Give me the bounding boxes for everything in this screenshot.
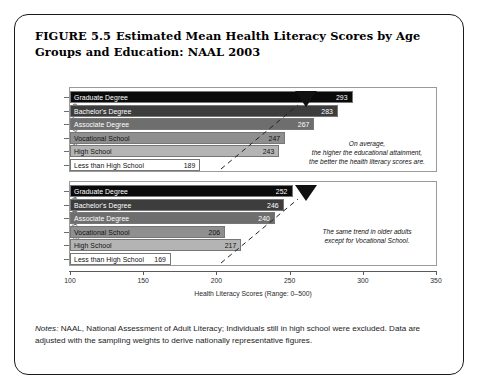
bar-value-label: 252 (276, 188, 288, 195)
y-axis-tick (64, 151, 69, 152)
annotation-top: On average, the higher the educational a… (297, 139, 437, 167)
y-axis-tick (64, 218, 69, 219)
bar-value-label: 217 (225, 242, 237, 249)
bar-value-label: 189 (184, 161, 196, 168)
bar-value-label: 283 (321, 107, 333, 114)
bar-row: Associate Degree267 (70, 118, 314, 130)
x-axis-tick-label: 250 (284, 277, 295, 284)
bar-category-label: Less than High School (74, 161, 144, 168)
bar-row: Graduate Degree293 (70, 91, 353, 103)
x-axis-tick-label: 150 (138, 277, 149, 284)
bar-row: High School217 (70, 239, 241, 251)
bar-row: Associate Degree240 (70, 212, 275, 224)
x-axis-tick (70, 271, 71, 275)
bar-row: Vocational School247 (70, 132, 285, 144)
bar-category-label: High School (74, 148, 112, 155)
y-axis-tick (64, 111, 69, 112)
y-axis-tick (64, 124, 69, 125)
bar-value-label: 240 (258, 215, 270, 222)
x-axis-tick (436, 271, 437, 275)
bar-row: Less than High School169 (70, 253, 171, 265)
bar-category-label: Associate Degree (74, 215, 129, 222)
figure-notes: Notes: NAAL, National Assessment of Adul… (35, 323, 443, 348)
bar-value-label: 246 (267, 201, 279, 208)
chart-plot-area: Age 64 and Younger Age 65 and Older Grad… (45, 87, 437, 309)
bar-value-label: 293 (336, 94, 348, 101)
y-axis-tick (64, 191, 69, 192)
bar-row: Less than High School189 (70, 159, 200, 171)
bar-category-label: High School (74, 242, 112, 249)
y-axis-tick (64, 165, 69, 166)
bar-category-label: Less than High School (74, 255, 144, 262)
bar-category-label: Graduate Degree (74, 94, 128, 101)
x-axis-tick (216, 271, 217, 275)
figure-number: FIGURE 5.5 (35, 29, 111, 43)
bar-value-label: 206 (209, 228, 221, 235)
bar-row: Bachelor's Degree246 (70, 199, 284, 211)
bar-category-label: Bachelor's Degree (74, 107, 131, 114)
x-axis-tick (290, 271, 291, 275)
bar-value-label: 169 (154, 255, 166, 262)
y-axis-tick (64, 138, 69, 139)
bar-value-label: 243 (263, 148, 275, 155)
bar-category-label: Graduate Degree (74, 188, 128, 195)
x-axis-tick (143, 271, 144, 275)
y-axis-tick (64, 259, 69, 260)
bar-row: Bachelor's Degree283 (70, 105, 338, 117)
y-axis-tick (64, 205, 69, 206)
y-axis-tick (64, 232, 69, 233)
figure-frame: FIGURE 5.5Estimated Mean Health Literacy… (14, 14, 464, 375)
bar-row: Vocational School206 (70, 226, 225, 238)
y-axis-tick (64, 245, 69, 246)
bar-category-label: Bachelor's Degree (74, 201, 131, 208)
x-axis-tick-label: 100 (64, 277, 75, 284)
x-axis-line (69, 271, 437, 272)
bar-value-label: 247 (269, 134, 281, 141)
x-axis-tick-label: 200 (211, 277, 222, 284)
x-axis-tick (363, 271, 364, 275)
bar-row: High School243 (70, 145, 279, 157)
bar-row: Graduate Degree252 (70, 185, 293, 197)
x-axis-tick-label: 350 (430, 277, 441, 284)
bar-category-label: Vocational School (74, 134, 130, 141)
bar-category-label: Vocational School (74, 228, 130, 235)
notes-text: NAAL, National Assessment of Adult Liter… (35, 324, 420, 345)
annotation-bottom: The same trend in older adults except fo… (297, 227, 437, 245)
x-axis-title: Health Literacy Scores (Range: 0–500) (69, 290, 437, 297)
figure-title: FIGURE 5.5Estimated Mean Health Literacy… (35, 29, 445, 60)
x-axis-tick-label: 300 (357, 277, 368, 284)
y-axis-tick (64, 97, 69, 98)
bar-value-label: 267 (298, 121, 310, 128)
bar-category-label: Associate Degree (74, 121, 129, 128)
notes-label: Notes: (35, 324, 58, 333)
